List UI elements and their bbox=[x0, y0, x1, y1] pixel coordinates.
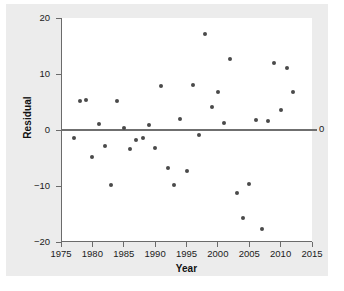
x-tick-mark bbox=[61, 242, 62, 247]
data-point bbox=[216, 90, 220, 94]
x-tick-mark bbox=[280, 242, 281, 247]
x-axis-title: Year bbox=[61, 263, 312, 274]
data-point bbox=[210, 105, 214, 109]
x-tick-label: 2005 bbox=[233, 249, 265, 259]
y-tick-mark bbox=[56, 186, 61, 187]
x-tick-mark bbox=[155, 242, 156, 247]
data-point bbox=[235, 191, 239, 195]
data-point bbox=[153, 146, 157, 150]
y-tick-label: 0 bbox=[45, 125, 50, 135]
data-point bbox=[84, 98, 88, 102]
data-point bbox=[122, 126, 126, 130]
data-point bbox=[128, 147, 132, 151]
y-tick-label: 10 bbox=[39, 69, 50, 79]
y-axis-title: Residual bbox=[22, 83, 33, 153]
data-point bbox=[172, 183, 176, 187]
data-point bbox=[141, 136, 145, 140]
x-tick-mark bbox=[92, 242, 93, 247]
zero-reference-line bbox=[61, 129, 317, 131]
x-tick-label: 2015 bbox=[296, 249, 328, 259]
data-point bbox=[285, 66, 289, 70]
x-tick-label: 2000 bbox=[202, 249, 234, 259]
data-point bbox=[78, 99, 82, 103]
data-point bbox=[247, 182, 251, 186]
y-tick-mark bbox=[56, 18, 61, 19]
residual-scatter-chart: 0 20100−10−20 19751980198519901995200020… bbox=[0, 0, 344, 291]
y-tick-label: −10 bbox=[34, 181, 50, 191]
x-tick-mark bbox=[123, 242, 124, 247]
zero-reference-line-label: 0 bbox=[319, 124, 324, 134]
data-point bbox=[147, 123, 151, 127]
data-point bbox=[260, 227, 264, 231]
x-tick-label: 1990 bbox=[139, 249, 171, 259]
x-tick-label: 1975 bbox=[45, 249, 77, 259]
y-tick-mark bbox=[56, 74, 61, 75]
data-point bbox=[134, 138, 138, 142]
x-tick-mark bbox=[186, 242, 187, 247]
data-point bbox=[191, 83, 195, 87]
data-point bbox=[254, 118, 258, 122]
data-point bbox=[97, 122, 101, 126]
data-point bbox=[166, 166, 170, 170]
x-tick-mark bbox=[312, 242, 313, 247]
data-point bbox=[72, 136, 76, 140]
x-tick-label: 1995 bbox=[171, 249, 203, 259]
x-tick-mark bbox=[217, 242, 218, 247]
x-tick-label: 1985 bbox=[108, 249, 140, 259]
y-tick-label: −20 bbox=[34, 237, 50, 247]
x-tick-mark bbox=[249, 242, 250, 247]
x-tick-label: 2010 bbox=[265, 249, 297, 259]
y-tick-label: 20 bbox=[39, 13, 50, 23]
y-tick-mark bbox=[56, 130, 61, 131]
x-tick-label: 1980 bbox=[76, 249, 108, 259]
